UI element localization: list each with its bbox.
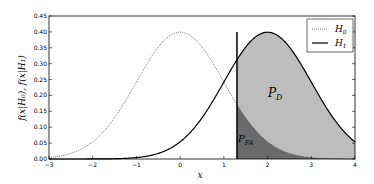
x-tick: 3: [309, 161, 313, 168]
x-tick: 4: [353, 161, 357, 168]
y-tick: 0.10: [34, 123, 48, 130]
y-tick: 0.20: [34, 91, 48, 98]
y-tick: 0.15: [34, 107, 48, 114]
x-tick: −2: [88, 161, 97, 168]
chart: −3−2−1012340.000.050.100.150.200.250.300…: [0, 0, 374, 184]
x-axis-label: x: [197, 170, 202, 180]
y-axis-label: f(x|H₀), f(x|H₁): [17, 55, 28, 122]
y-tick: 0.25: [34, 76, 48, 83]
y-tick: 0.00: [34, 155, 48, 162]
x-tick: 1: [222, 161, 226, 168]
y-tick: 0.40: [34, 28, 48, 35]
x-tick: 0: [178, 161, 182, 168]
y-tick: 0.35: [34, 44, 48, 51]
y-tick: 0.05: [34, 139, 48, 146]
y-tick: 0.30: [34, 60, 48, 67]
x-tick: 2: [266, 161, 270, 168]
x-tick: −1: [132, 161, 141, 168]
x-tick: −3: [45, 161, 54, 168]
y-tick: 0.45: [34, 12, 48, 19]
